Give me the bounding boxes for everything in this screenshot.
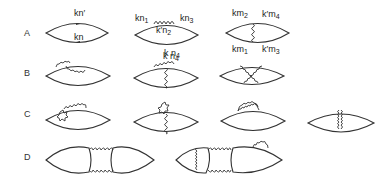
- a3-br-label: k′m3: [262, 44, 280, 55]
- a1-top-label: kn′: [74, 8, 86, 18]
- row-label-a: A: [24, 28, 30, 38]
- diagram-b2-vertex-self: [134, 62, 198, 88]
- diagram-c1: [46, 104, 110, 130]
- diagram-c3: [221, 102, 285, 131]
- a2-left-label: kn1: [135, 13, 149, 24]
- a3-tr-label: k′m4: [262, 9, 280, 20]
- a2-right-label: kn3: [180, 13, 194, 24]
- a3-bl-label: km1: [232, 44, 248, 55]
- a3-tl-label: km2: [232, 8, 248, 19]
- a2-inner-label: k′n2: [156, 25, 171, 36]
- diagram-canvas: A B C D kn′ kn kn1 kn3 k′n2 k n4 km2 k′m…: [0, 0, 388, 187]
- a1-bottom-label: kn: [74, 32, 84, 42]
- diagram-b3-crossed: [220, 66, 284, 85]
- row-label-c: C: [24, 109, 31, 119]
- diagram-d1-chain: [46, 147, 154, 173]
- row-label-d: D: [24, 152, 31, 162]
- diagram-c2: [134, 102, 198, 134]
- diagram-a3-vertex: km2 k′m4 km1 k′m3: [226, 8, 289, 55]
- row-label-b: B: [24, 68, 30, 78]
- diagram-d2-chain: [176, 141, 282, 173]
- diagram-c4: [308, 110, 374, 132]
- diagram-b1-overlapping: [46, 61, 110, 85]
- diagram-a1-bubble: kn′ kn: [46, 8, 108, 43]
